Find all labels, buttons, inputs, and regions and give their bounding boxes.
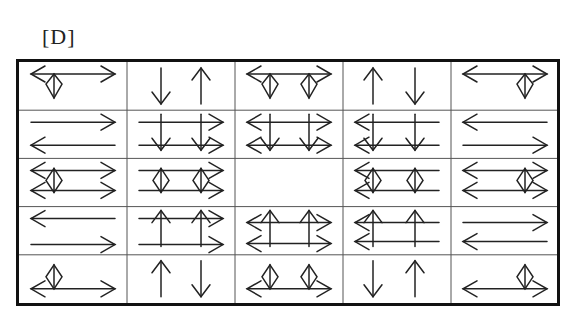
grid-cell-r4-c1 <box>31 211 115 253</box>
grid-cell-r5-c5 <box>463 265 547 297</box>
grid-drawing <box>19 62 557 303</box>
grid-cell-r2-c1 <box>31 114 115 153</box>
grid-cell-r4-c3 <box>247 211 331 252</box>
grid-cell-r1-c4 <box>364 68 424 104</box>
puzzle-grid <box>16 59 560 306</box>
grid-cell-r4-c2 <box>139 211 223 253</box>
grid-cell-r3-c4 <box>355 162 439 198</box>
grid-cell-r1-c5 <box>463 66 547 98</box>
grid-cell-r5-c4 <box>364 261 424 297</box>
grid-cell-r3-c1 <box>31 162 115 198</box>
grid-cell-r3-c2 <box>139 162 223 198</box>
grid-cell-r4-c4 <box>355 211 439 250</box>
grid-cell-r4-c5 <box>463 215 547 250</box>
grid-cell-r5-c2 <box>152 261 210 297</box>
puzzle-label: [D] <box>42 24 76 50</box>
grid-cell-r1-c2 <box>152 68 210 104</box>
grid-cell-r5-c1 <box>31 265 115 297</box>
grid-cell-r3-c5 <box>463 162 547 198</box>
grid-cell-r2-c5 <box>463 114 547 153</box>
grid-cell-r1-c3 <box>247 66 331 98</box>
grid-cell-r2-c4 <box>355 114 439 153</box>
grid-cell-r5-c3 <box>247 265 331 297</box>
grid-cell-r1-c1 <box>31 66 115 98</box>
grid-cell-r2-c3 <box>247 114 331 153</box>
grid-cell-r2-c2 <box>139 114 223 153</box>
